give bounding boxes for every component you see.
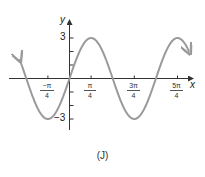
x-tick-label-3pi-4: 3π 4 <box>127 82 140 99</box>
figure-caption: (J) <box>0 150 205 161</box>
x-tick-label-neg-pi-4: −π 4 <box>40 82 54 99</box>
y-tick-label-bottom: −3 <box>54 113 65 123</box>
x-tick-label-5pi-4: 5π 4 <box>170 82 183 99</box>
y-axis-label: y <box>60 15 65 25</box>
x-tick-label-pi-4: π 4 <box>84 82 96 99</box>
y-tick-label-top: 3 <box>60 32 66 42</box>
x-axis-label: x <box>190 80 195 90</box>
